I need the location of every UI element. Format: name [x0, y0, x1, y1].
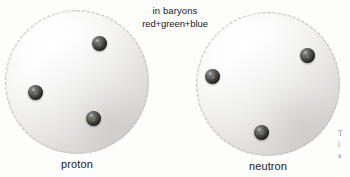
baryon-quark-diagram: in baryons red+green+blue u u d proton d… [0, 0, 350, 177]
quark-label: d [86, 111, 101, 126]
quark-proton-2: u [28, 85, 43, 100]
quark-neutron-1: d [205, 69, 220, 84]
quark-proton-1: u [92, 36, 107, 51]
quark-label: u [28, 85, 43, 100]
neutron-caption: neutron [196, 160, 340, 172]
quark-neutron-2: u [300, 48, 315, 63]
margin-text-line-1: T [338, 128, 350, 139]
quark-neutron-3: d [254, 125, 269, 140]
quark-proton-3: d [86, 111, 101, 126]
proton-sphere-boundary-inner [6, 11, 148, 153]
proton-sphere [5, 10, 149, 154]
header-line-colors: red+green+blue [0, 18, 350, 31]
quark-label: d [205, 69, 220, 84]
header-annotation: in baryons red+green+blue [0, 5, 350, 30]
proton-caption: proton [5, 158, 149, 170]
margin-text-line-2: i [338, 139, 350, 150]
margin-text-fragment: T i a [338, 128, 350, 161]
quark-label: d [254, 125, 269, 140]
quark-label: u [300, 48, 315, 63]
header-line-baryons: in baryons [0, 5, 350, 18]
quark-label: u [92, 36, 107, 51]
